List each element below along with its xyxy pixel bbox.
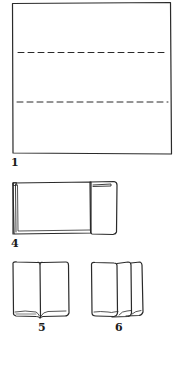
step-label-4: 4 <box>11 238 19 249</box>
step-label-1: 1 <box>11 157 19 168</box>
step-5-figure <box>13 262 69 318</box>
step-label-6: 6 <box>115 322 123 333</box>
folding-diagram <box>0 0 180 374</box>
step-label-5: 5 <box>38 322 46 333</box>
step-6-figure <box>92 262 144 317</box>
step-1-figure <box>13 3 172 155</box>
step-4-figure <box>13 182 117 235</box>
